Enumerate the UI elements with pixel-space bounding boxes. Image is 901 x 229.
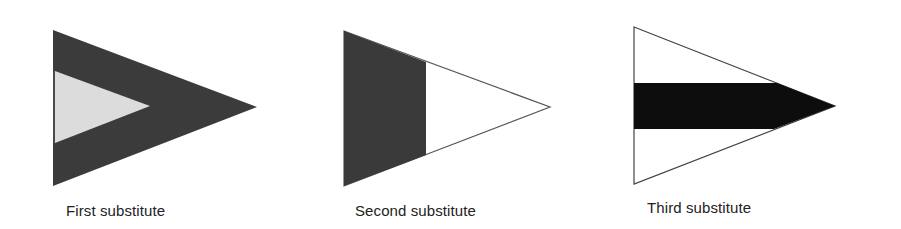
first-substitute-label: First substitute	[66, 202, 165, 219]
first-substitute-flag	[53, 30, 257, 186]
third-substitute-label: Third substitute	[647, 199, 751, 216]
flags-canvas	[0, 0, 901, 229]
second-substitute-flag	[344, 31, 550, 186]
third-substitute-flag	[634, 27, 835, 184]
second-substitute-label: Second substitute	[355, 202, 476, 219]
second-substitute-hoist	[344, 31, 426, 186]
substitute-flags-diagram: First substitute Second substitute Third…	[0, 0, 901, 229]
third-substitute-band	[634, 83, 835, 129]
